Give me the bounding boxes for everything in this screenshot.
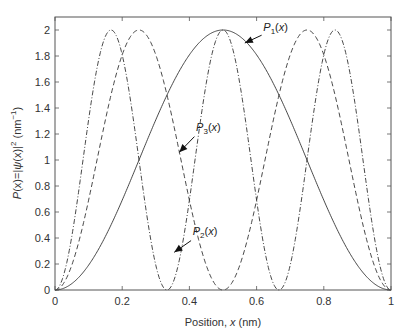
x-tick-label: 0.4: [182, 295, 197, 307]
annotation-label: P1(x): [263, 21, 288, 36]
y-tick-label: 0.6: [35, 206, 50, 218]
annotation-label: P2(x): [193, 225, 218, 240]
x-axis-label: Position, x (nm): [185, 316, 261, 328]
y-tick-label: 1.2: [35, 128, 50, 140]
x-tick-label: 0: [52, 295, 58, 307]
annotation-p2: P2(x): [174, 225, 217, 252]
y-tick-label: 1.8: [35, 50, 50, 62]
annotation-label: P3(x): [196, 121, 221, 136]
y-tick-label: 0.2: [35, 258, 50, 270]
y-tick-label: 0.4: [35, 232, 50, 244]
x-tick-label: 1: [388, 295, 394, 307]
y-tick-label: 1.6: [35, 76, 50, 88]
y-tick-label: 2: [44, 24, 50, 36]
curve-p1x: [55, 30, 391, 290]
plot-frame: [55, 17, 391, 290]
x-tick-label: 0.6: [249, 295, 264, 307]
annotation-p1: P1(x): [245, 21, 288, 43]
y-axis-label: P(x)=|ψ(x)|2 (nm−1): [9, 107, 23, 199]
curve-p2x: [55, 30, 391, 290]
y-tick-label: 0.8: [35, 180, 50, 192]
x-tick-label: 0.2: [115, 295, 130, 307]
curve-annotations: P1(x)P3(x)P2(x): [174, 21, 288, 252]
x-axis-ticks: 00.20.40.60.81: [52, 17, 394, 307]
chart: 00.20.40.60.81 00.20.40.60.811.21.41.61.…: [0, 0, 405, 334]
curve-p3x: [55, 30, 391, 290]
plot-curves: [55, 30, 391, 290]
y-tick-label: 0: [44, 284, 50, 296]
x-tick-label: 0.8: [316, 295, 331, 307]
y-tick-label: 1: [44, 154, 50, 166]
annotation-p3: P3(x): [179, 121, 220, 152]
y-tick-label: 1.4: [35, 102, 50, 114]
y-axis-ticks: 00.20.40.60.811.21.41.61.82: [35, 24, 391, 296]
